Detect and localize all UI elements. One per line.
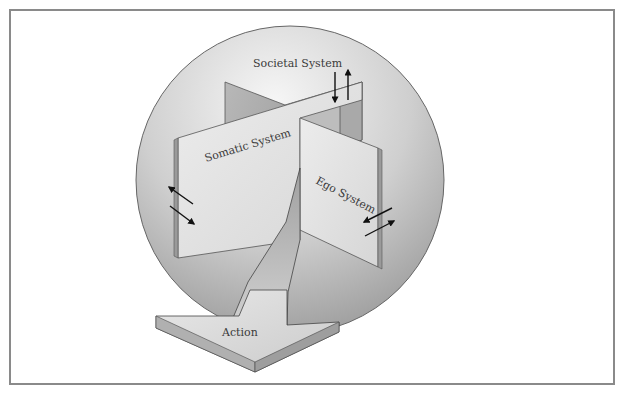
label-action: Action (221, 326, 258, 339)
three-systems-diagram: Societal System Somatic System Ego Syste… (0, 0, 626, 394)
somatic-panel-edge (174, 138, 178, 258)
label-societal-system: Societal System (253, 57, 343, 70)
ego-panel-edge (378, 148, 382, 269)
